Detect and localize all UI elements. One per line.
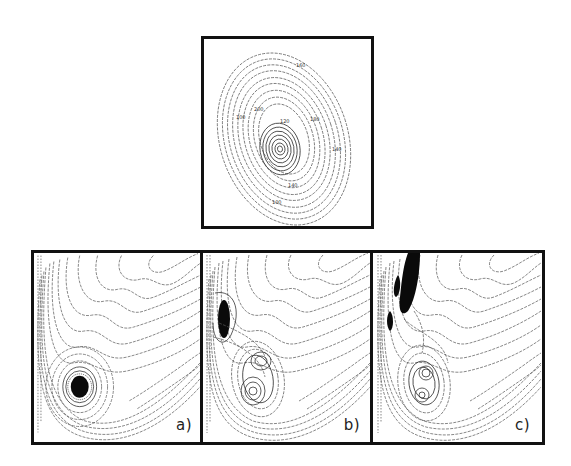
panel-label-b: b) (344, 416, 360, 434)
valley-contour-plot-a (34, 253, 200, 442)
contour-label: 160 (296, 62, 306, 68)
contour-label: 200 (254, 106, 264, 112)
density-streak (387, 311, 393, 331)
density-blob (71, 376, 89, 398)
valley-contour-plot-c (373, 253, 542, 442)
contour-label: 180 (310, 116, 320, 122)
panel-label-a: a) (176, 416, 192, 434)
density-streak (399, 253, 420, 313)
contour-label: 140 (332, 146, 342, 152)
panel-b: b) (203, 253, 370, 442)
density-blob (218, 300, 230, 338)
top-contour-panel: 160 200 180 120 100 140 140 100 (201, 36, 374, 229)
contour-label: 100 (236, 114, 246, 120)
elliptic-contour-plot: 160 200 180 120 100 140 140 100 (204, 39, 371, 226)
density-streak (394, 275, 400, 297)
contour-label: 120 (280, 118, 290, 124)
contour-label: 100 (272, 199, 282, 205)
valley-contour-plot-b (203, 253, 370, 442)
panel-a: a) (34, 253, 200, 442)
panel-c: c) (373, 253, 542, 442)
contour-label: 140 (288, 182, 298, 188)
panel-label-c: c) (515, 416, 530, 434)
